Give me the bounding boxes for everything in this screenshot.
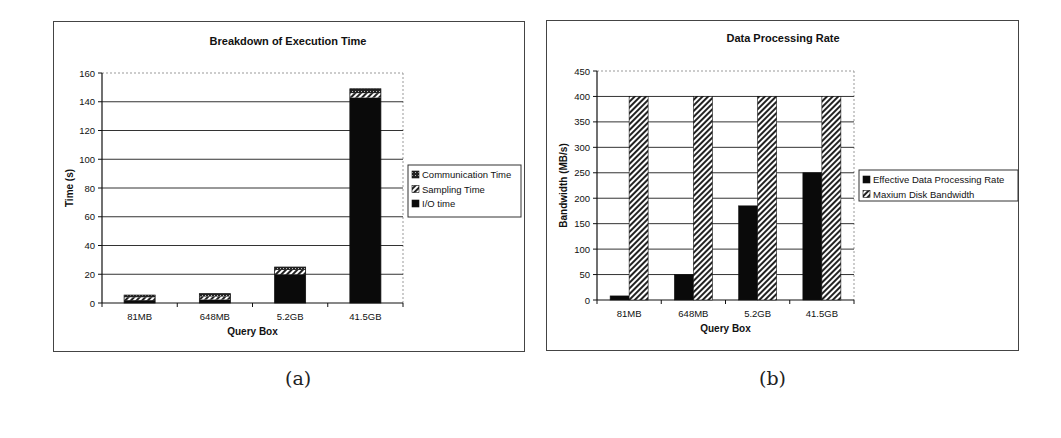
legend-item: Effective Data Processing Rate <box>873 174 1004 185</box>
caption-a: (a) <box>285 367 311 389</box>
y-tick-label: 450 <box>574 66 590 77</box>
caption-b: (b) <box>759 367 786 389</box>
x-tick-label: 41.5GB <box>806 308 838 319</box>
y-tick-label: 50 <box>579 269 590 280</box>
y-tick-label: 150 <box>574 218 590 229</box>
y-tick-label: 350 <box>574 116 590 127</box>
x-tick-label: 5.2GB <box>744 308 771 319</box>
y-axis-label: Bandwidth (MB/s) <box>558 143 569 227</box>
bar <box>610 296 629 300</box>
x-axis-label: Query Box <box>700 323 751 334</box>
x-tick-label: 81MB <box>617 308 642 319</box>
y-tick-label: 300 <box>574 142 590 153</box>
y-tick-label: 250 <box>574 167 590 178</box>
bar <box>822 96 841 300</box>
y-tick-label: 400 <box>574 91 590 102</box>
bar <box>739 206 758 300</box>
chart-title: Data Processing Rate <box>726 32 839 44</box>
y-tick-label: 100 <box>574 244 590 255</box>
bar <box>693 96 712 300</box>
legend-swatch <box>863 191 870 198</box>
legend-swatch <box>863 176 870 183</box>
chart-b-processing-rate: Data Processing Rate05010015020025030035… <box>0 0 1061 438</box>
y-tick-label: 200 <box>574 193 590 204</box>
x-tick-label: 648MB <box>678 308 708 319</box>
bar <box>758 96 777 300</box>
y-tick-label: 0 <box>585 295 590 306</box>
bar <box>803 173 822 300</box>
bar <box>674 275 693 300</box>
legend-item: Maxium Disk Bandwidth <box>873 189 974 200</box>
bar <box>629 96 648 300</box>
